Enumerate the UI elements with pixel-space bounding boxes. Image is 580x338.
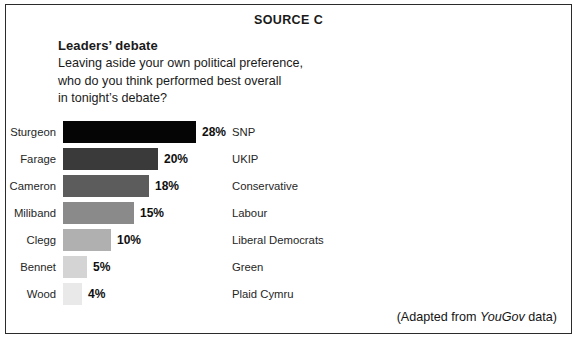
bar-chart: Sturgeon28%SNPFarage20%UKIPCameron18%Con… — [6, 118, 571, 307]
bar-group: 4% — [63, 283, 105, 305]
bar-group: 10% — [63, 229, 141, 251]
chart-row: Miliband15%Labour — [6, 199, 571, 226]
bar — [63, 283, 82, 305]
chart-row: Bennet5%Green — [6, 253, 571, 280]
question-line-1: Leaving aside your own political prefere… — [58, 55, 303, 73]
bar-group: 20% — [63, 148, 188, 170]
leader-name: Clegg — [6, 234, 56, 246]
bar — [63, 229, 111, 251]
question-line-2: who do you think performed best overall — [58, 73, 303, 91]
party-name: Conservative — [232, 180, 298, 192]
attribution-brand: YouGov — [480, 310, 525, 324]
chart-row: Clegg10%Liberal Democrats — [6, 226, 571, 253]
chart-row: Sturgeon28%SNP — [6, 118, 571, 145]
leader-name: Farage — [6, 153, 56, 165]
bar-group: 15% — [63, 202, 164, 224]
bar-value-label: 10% — [117, 233, 141, 247]
chart-row: Cameron18%Conservative — [6, 172, 571, 199]
bar-group: 28% — [63, 121, 226, 143]
bar-value-label: 20% — [164, 152, 188, 166]
bar-value-label: 4% — [88, 287, 105, 301]
chart-question: Leaving aside your own political prefere… — [58, 55, 303, 108]
chart-row: Farage20%UKIP — [6, 145, 571, 172]
attribution-suffix: data) — [525, 310, 557, 324]
source-page: SOURCE C Leaders’ debate Leaving aside y… — [0, 0, 580, 338]
attribution-prefix: (Adapted from — [397, 310, 480, 324]
leader-name: Wood — [6, 288, 56, 300]
bar — [63, 121, 196, 143]
question-line-3: in tonight’s debate? — [58, 90, 303, 108]
chart-row: Wood4%Plaid Cymru — [6, 280, 571, 307]
leader-name: Sturgeon — [6, 126, 56, 138]
party-name: Plaid Cymru — [232, 288, 294, 300]
bar — [63, 175, 149, 197]
bar-group: 5% — [63, 256, 110, 278]
party-name: Green — [232, 261, 263, 273]
bar-value-label: 28% — [202, 125, 226, 139]
source-frame: SOURCE C Leaders’ debate Leaving aside y… — [5, 4, 572, 334]
bar — [63, 148, 158, 170]
party-name: UKIP — [232, 153, 258, 165]
bar — [63, 202, 134, 224]
source-heading: SOURCE C — [6, 13, 571, 27]
party-name: Labour — [232, 207, 267, 219]
bar — [63, 256, 87, 278]
leader-name: Miliband — [6, 207, 56, 219]
chart-title: Leaders’ debate — [58, 38, 158, 53]
bar-group: 18% — [63, 175, 179, 197]
bar-value-label: 5% — [93, 260, 110, 274]
party-name: Liberal Democrats — [232, 234, 324, 246]
party-name: SNP — [232, 126, 255, 138]
bar-value-label: 15% — [140, 206, 164, 220]
attribution: (Adapted from YouGov data) — [397, 310, 557, 324]
bar-value-label: 18% — [155, 179, 179, 193]
leader-name: Cameron — [6, 180, 56, 192]
leader-name: Bennet — [6, 261, 56, 273]
